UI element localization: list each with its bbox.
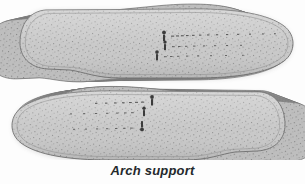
upper-insole-top-layer [20, 9, 293, 78]
lower-insole-group [12, 79, 305, 160]
lower-insole-top-layer [12, 91, 285, 160]
insole-svg [0, 0, 305, 160]
figure-caption: Arch support [0, 163, 305, 178]
figure-page: Arch support [0, 0, 305, 184]
insole-illustration [0, 0, 305, 160]
upper-insole-group [0, 0, 293, 90]
